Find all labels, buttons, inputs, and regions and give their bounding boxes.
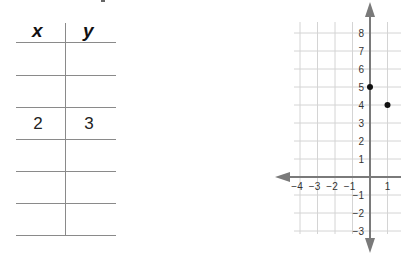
axes <box>275 2 401 253</box>
y-axis-up-arrow-icon <box>365 2 375 17</box>
point-1-4 <box>385 102 391 108</box>
svg-text:−4: −4 <box>291 181 303 192</box>
svg-text:−3: −3 <box>309 181 321 192</box>
svg-text:−2: −2 <box>353 208 365 219</box>
svg-text:−2: −2 <box>326 181 338 192</box>
grid-lines <box>294 22 401 234</box>
y-axis-down-arrow-icon <box>365 238 375 253</box>
svg-text:1: 1 <box>385 181 391 192</box>
svg-text:5: 5 <box>358 82 364 93</box>
svg-text:3: 3 <box>358 118 364 129</box>
svg-text:7: 7 <box>358 46 364 57</box>
svg-text:1: 1 <box>358 154 364 165</box>
coordinate-grid: 8 7 6 5 4 3 2 1 −1 −2 −3 −4 −3 −2 −1 1 <box>0 0 401 255</box>
point-0-5 <box>367 84 373 90</box>
y-tick-labels: 8 7 6 5 4 3 2 1 −1 −2 −3 <box>353 28 365 237</box>
x-axis-left-arrow-icon <box>275 172 290 182</box>
svg-text:−1: −1 <box>344 181 356 192</box>
svg-text:8: 8 <box>358 28 364 39</box>
svg-text:−3: −3 <box>353 226 365 237</box>
svg-text:4: 4 <box>358 100 364 111</box>
svg-text:2: 2 <box>358 136 364 147</box>
x-tick-labels: −4 −3 −2 −1 1 <box>291 181 390 192</box>
svg-text:6: 6 <box>358 64 364 75</box>
